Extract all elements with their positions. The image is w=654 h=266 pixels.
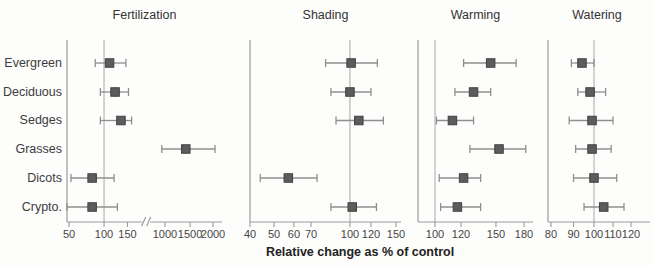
tick-label-100: 100 <box>426 228 444 240</box>
data-point-marker <box>182 145 191 154</box>
category-label-deciduous: Deciduous <box>0 85 62 99</box>
data-point-marker <box>495 145 504 154</box>
tick-label-120: 120 <box>452 228 470 240</box>
category-label-grasses: Grasses <box>0 142 62 156</box>
panel-title-shading: Shading <box>303 8 349 22</box>
tick-label-150: 150 <box>487 228 505 240</box>
tick-label-100: 100 <box>585 228 603 240</box>
tick-label-1500: 1500 <box>178 228 202 240</box>
forest-plot-figure: Fertilization Shading Warming Watering E… <box>0 0 654 266</box>
data-point-marker <box>590 174 599 183</box>
data-point-marker <box>347 59 356 68</box>
tick-label-150: 150 <box>118 228 136 240</box>
data-point-marker <box>578 59 587 68</box>
data-point-marker <box>453 203 462 212</box>
data-point-marker <box>448 116 457 125</box>
tick-label-100: 100 <box>341 228 359 240</box>
tick-label-1000: 1000 <box>153 228 177 240</box>
data-point-marker <box>459 174 468 183</box>
data-point-marker <box>105 59 114 68</box>
tick-label-120: 120 <box>362 228 380 240</box>
data-point-marker <box>599 203 608 212</box>
tick-label-60: 60 <box>288 228 300 240</box>
tick-label-2000: 2000 <box>201 228 225 240</box>
tick-label-80: 80 <box>545 228 557 240</box>
data-point-marker <box>117 116 126 125</box>
data-point-marker <box>88 203 97 212</box>
data-point-marker <box>588 145 597 154</box>
category-label-dicots: Dicots <box>0 171 62 185</box>
data-point-marker <box>469 88 478 97</box>
panel-title-warming: Warming <box>451 8 501 22</box>
plot-canvas <box>0 0 654 266</box>
data-point-marker <box>111 88 120 97</box>
data-point-marker <box>355 116 364 125</box>
panel-title-watering: Watering <box>572 8 622 22</box>
data-point-marker <box>588 116 597 125</box>
category-label-crypto: Crypto. <box>0 200 62 214</box>
category-label-sedges: Sedges <box>0 113 62 127</box>
tick-label-180: 180 <box>515 228 533 240</box>
tick-label-110: 110 <box>604 228 622 240</box>
data-point-marker <box>348 203 357 212</box>
x-axis-label: Relative change as % of control <box>266 245 454 259</box>
tick-label-150: 150 <box>387 228 405 240</box>
data-point-marker <box>586 88 595 97</box>
data-point-marker <box>346 88 355 97</box>
tick-label-50: 50 <box>268 228 280 240</box>
data-point-marker <box>88 174 97 183</box>
data-point-marker <box>486 59 495 68</box>
tick-label-70: 70 <box>305 228 317 240</box>
panel-title-fertilization: Fertilization <box>113 8 177 22</box>
tick-label-40: 40 <box>244 228 256 240</box>
data-point-marker <box>284 174 293 183</box>
category-label-evergreen: Evergreen <box>0 56 62 70</box>
tick-label-120: 120 <box>622 228 640 240</box>
tick-label-90: 90 <box>567 228 579 240</box>
tick-label-50: 50 <box>63 228 75 240</box>
tick-label-100: 100 <box>95 228 113 240</box>
